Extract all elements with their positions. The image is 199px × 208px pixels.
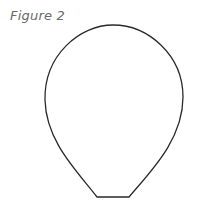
balloon-outline-icon (0, 0, 199, 208)
balloon-path (45, 25, 183, 197)
figure-canvas: Figure 2 (0, 0, 199, 208)
